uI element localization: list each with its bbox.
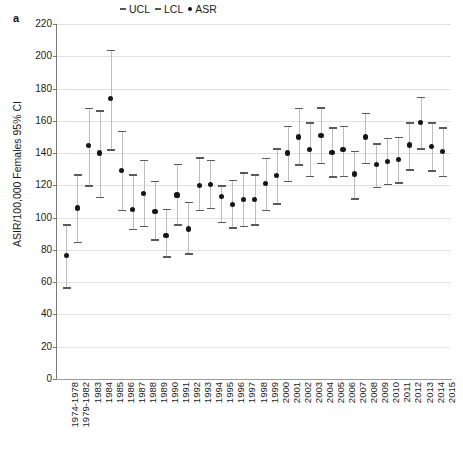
asr-marker[interactable]	[296, 134, 301, 139]
data-point-group[interactable]	[221, 24, 222, 379]
asr-marker[interactable]	[429, 144, 434, 149]
asr-marker[interactable]	[108, 96, 113, 101]
data-point-group[interactable]	[288, 24, 289, 379]
asr-marker[interactable]	[352, 171, 357, 176]
lower-confidence-limit-cap	[439, 176, 447, 178]
data-point-group[interactable]	[210, 24, 211, 379]
lower-confidence-limit-cap	[262, 210, 270, 212]
x-axis-tick-label: 1998	[259, 382, 269, 403]
y-axis-tick-label: 20	[8, 342, 52, 352]
data-point-group[interactable]	[111, 24, 112, 379]
asr-marker[interactable]	[252, 197, 257, 202]
upper-confidence-limit-cap	[340, 126, 348, 128]
data-point-group[interactable]	[398, 24, 399, 379]
upper-confidence-limit-cap	[317, 107, 325, 109]
data-point-group[interactable]	[77, 24, 78, 379]
asr-marker[interactable]	[318, 133, 323, 138]
asr-marker[interactable]	[64, 253, 69, 258]
asr-marker[interactable]	[340, 147, 345, 152]
asr-marker[interactable]	[241, 197, 246, 202]
data-point-group[interactable]	[299, 24, 300, 379]
data-point-group[interactable]	[387, 24, 388, 379]
data-point-group[interactable]	[365, 24, 366, 379]
lower-confidence-limit-cap	[207, 208, 215, 210]
data-point-group[interactable]	[66, 24, 67, 379]
x-axis-tick-label: 1988	[148, 382, 158, 403]
data-point-group[interactable]	[100, 24, 101, 379]
data-point-group[interactable]	[409, 24, 410, 379]
asr-marker[interactable]	[363, 134, 368, 139]
data-point-group[interactable]	[321, 24, 322, 379]
asr-marker[interactable]	[119, 168, 124, 173]
asr-marker[interactable]	[307, 147, 312, 152]
lower-confidence-limit-cap	[229, 227, 237, 229]
legend-label-asr: ASR	[195, 3, 217, 15]
asr-marker[interactable]	[75, 205, 80, 210]
data-point-group[interactable]	[243, 24, 244, 379]
upper-confidence-limit-cap	[140, 160, 148, 162]
data-point-group[interactable]	[133, 24, 134, 379]
lower-confidence-limit-cap	[373, 187, 381, 189]
data-point-group[interactable]	[144, 24, 145, 379]
upper-confidence-limit-cap	[151, 181, 159, 183]
y-axis-tick-label: 0	[8, 374, 52, 384]
data-point-group[interactable]	[199, 24, 200, 379]
asr-marker[interactable]	[230, 202, 235, 207]
lower-confidence-limit-cap	[196, 210, 204, 212]
asr-marker[interactable]	[285, 150, 290, 155]
lower-confidence-limit-cap	[185, 253, 193, 255]
asr-marker[interactable]	[141, 191, 146, 196]
x-axis-tick-label: 2006	[347, 382, 357, 403]
upper-confidence-limit-cap	[174, 164, 182, 166]
asr-marker[interactable]	[418, 120, 423, 125]
asr-marker[interactable]	[219, 194, 224, 199]
dash-icon	[155, 8, 161, 10]
chart-legend: UCL LCL ASR	[120, 3, 217, 15]
asr-marker[interactable]	[97, 150, 102, 155]
asr-marker[interactable]	[329, 150, 334, 155]
data-point-group[interactable]	[155, 24, 156, 379]
upper-confidence-limit-cap	[63, 224, 71, 226]
asr-marker[interactable]	[385, 159, 390, 164]
asr-marker[interactable]	[197, 183, 202, 188]
legend-item-lcl: LCL	[155, 3, 183, 15]
asr-marker[interactable]	[208, 182, 213, 187]
asr-marker[interactable]	[407, 142, 412, 147]
data-point-group[interactable]	[432, 24, 433, 379]
data-point-group[interactable]	[122, 24, 123, 379]
data-point-group[interactable]	[277, 24, 278, 379]
asr-marker[interactable]	[174, 192, 179, 197]
asr-marker[interactable]	[130, 207, 135, 212]
data-point-group[interactable]	[232, 24, 233, 379]
asr-marker[interactable]	[274, 173, 279, 178]
upper-confidence-limit-cap	[395, 137, 403, 139]
data-point-group[interactable]	[343, 24, 344, 379]
data-point-group[interactable]	[188, 24, 189, 379]
asr-marker[interactable]	[374, 162, 379, 167]
data-point-group[interactable]	[89, 24, 90, 379]
data-point-group[interactable]	[376, 24, 377, 379]
upper-confidence-limit-cap	[295, 108, 303, 110]
asr-marker[interactable]	[186, 226, 191, 231]
data-point-group[interactable]	[332, 24, 333, 379]
data-point-group[interactable]	[443, 24, 444, 379]
data-point-group[interactable]	[354, 24, 355, 379]
asr-marker[interactable]	[396, 157, 401, 162]
asr-marker[interactable]	[152, 209, 157, 214]
x-axis-tick-label: 1984	[104, 382, 114, 403]
x-axis-tick-label: 2014	[436, 382, 446, 403]
lower-confidence-limit-cap	[362, 163, 370, 165]
data-point-group[interactable]	[255, 24, 256, 379]
data-point-group[interactable]	[177, 24, 178, 379]
data-point-group[interactable]	[310, 24, 311, 379]
plot-area	[57, 24, 451, 379]
lower-confidence-limit-cap	[306, 176, 314, 178]
asr-marker[interactable]	[86, 143, 91, 148]
y-axis-tick-label: 40	[8, 309, 52, 319]
upper-confidence-limit-cap	[329, 127, 337, 129]
asr-marker[interactable]	[163, 233, 168, 238]
data-point-group[interactable]	[166, 24, 167, 379]
data-point-group[interactable]	[421, 24, 422, 379]
data-point-group[interactable]	[266, 24, 267, 379]
x-axis-tick-label: 1992	[192, 382, 202, 403]
